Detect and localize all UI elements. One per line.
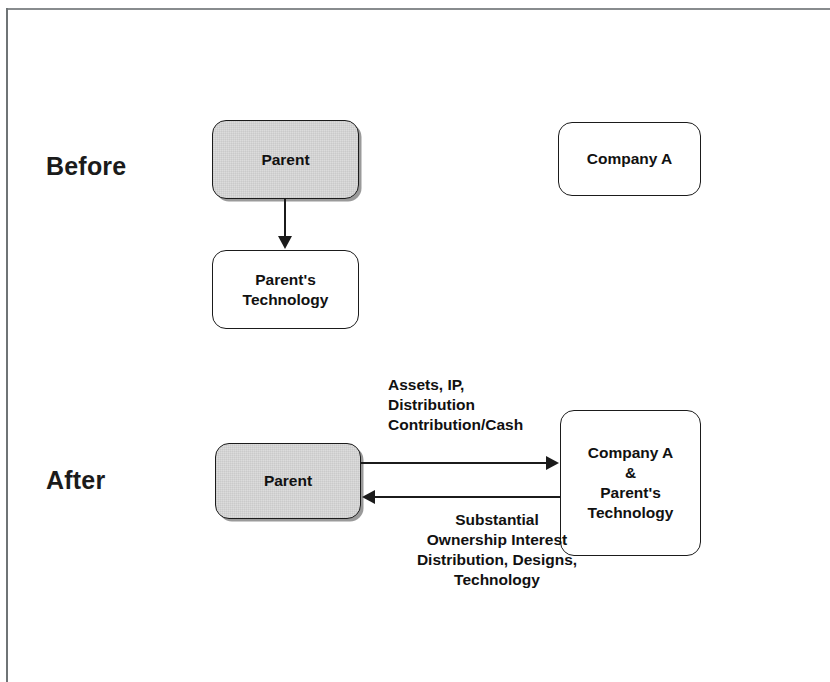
edge-label-company-to-parent: Substantial Ownership Interest Distribut… (372, 510, 622, 591)
node-before-company-a: Company A (558, 122, 701, 196)
node-after-parent-label: Parent (258, 471, 318, 491)
node-before-parent-technology-label: Parent's Technology (237, 270, 335, 310)
diagram-canvas: Before Parent Company A Parent's Technol… (0, 0, 830, 682)
node-before-parent-technology: Parent's Technology (212, 250, 359, 329)
arrow-right-icon (546, 456, 559, 470)
section-label-before: Before (46, 152, 126, 181)
node-before-parent: Parent (212, 120, 359, 199)
node-before-company-a-label: Company A (581, 149, 679, 169)
arrow-down-icon (278, 236, 292, 249)
page-frame-top-rule (6, 8, 830, 10)
section-label-after: After (46, 466, 105, 495)
arrow-left-icon (362, 490, 375, 504)
node-after-parent: Parent (215, 443, 361, 519)
page-frame-left-rule (6, 8, 8, 682)
edge-after-company-to-parent-line (375, 496, 561, 498)
edge-after-parent-to-company-line (361, 462, 546, 464)
edge-label-parent-to-company: Assets, IP, Distribution Contribution/Ca… (388, 375, 523, 435)
node-before-parent-label: Parent (255, 150, 315, 170)
edge-before-parent-to-technology-line (284, 199, 286, 239)
